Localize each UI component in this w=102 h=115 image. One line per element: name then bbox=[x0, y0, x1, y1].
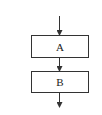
box-b-label: B bbox=[56, 76, 63, 88]
process-box-b: B bbox=[32, 72, 89, 93]
process-box-a: A bbox=[32, 36, 89, 58]
flowchart: A B bbox=[0, 0, 102, 115]
box-a-label: A bbox=[56, 41, 64, 53]
